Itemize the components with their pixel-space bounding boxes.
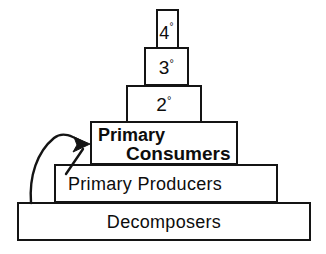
degree-symbol-icon: °	[167, 94, 172, 106]
tier-secondary-label: 2°	[156, 95, 171, 114]
tier-primary-consumers-label: Primary Consumers	[92, 123, 231, 164]
tier-quaternary-number: 4	[159, 23, 169, 43]
tier-primary-consumers-label-line-one: Primary	[98, 126, 231, 144]
tier-primary-consumers: Primary Consumers	[90, 121, 238, 165]
ecological-pyramid-diagram: 4° 3° 2° Primary Consumers Primary Produ…	[0, 0, 326, 254]
degree-symbol-icon: °	[170, 57, 175, 69]
tier-tertiary-label: 3°	[159, 58, 174, 77]
tier-decomposers-label: Decomposers	[107, 213, 221, 231]
tier-secondary-number: 2	[156, 95, 167, 116]
arrowhead-icon	[73, 137, 90, 152]
degree-symbol-icon: °	[170, 21, 174, 32]
tier-quaternary-consumers: 4°	[156, 9, 179, 49]
tier-decomposers: Decomposers	[17, 202, 311, 241]
tier-tertiary-number: 3	[159, 57, 170, 78]
tier-primary-producers: Primary Producers	[54, 164, 278, 203]
tier-primary-consumers-label-line-two: Consumers	[98, 144, 231, 163]
tier-quaternary-label: 4°	[159, 24, 173, 42]
tier-secondary-consumers: 2°	[126, 85, 202, 123]
tier-tertiary-consumers: 3°	[144, 47, 189, 86]
tier-primary-producers-label: Primary Producers	[56, 175, 222, 193]
